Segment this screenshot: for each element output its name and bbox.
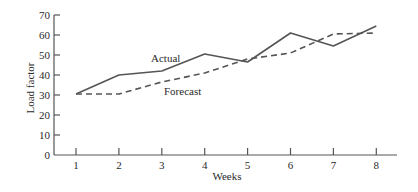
- actual-series-label: Actual: [151, 52, 180, 64]
- x-axis-label: Weeks: [212, 170, 241, 182]
- y-tick-label: 60: [39, 29, 51, 41]
- y-tick-label: 70: [39, 9, 51, 21]
- series-group: [76, 26, 376, 94]
- x-tick-label: 3: [159, 159, 165, 171]
- forecast-series-label: Forecast: [164, 85, 201, 97]
- y-tick-label: 10: [39, 129, 51, 141]
- x-tick-label: 6: [288, 159, 294, 171]
- actual-line: [76, 26, 376, 94]
- x-tick-label: 5: [245, 159, 251, 171]
- y-tick-label: 20: [39, 109, 51, 121]
- forecast-line: [76, 33, 376, 94]
- x-tick-label: 4: [202, 159, 208, 171]
- x-tick-label: 8: [374, 159, 380, 171]
- y-axis: 010203040506070: [39, 9, 60, 161]
- y-tick-label: 50: [39, 49, 51, 61]
- x-axis: 12345678: [54, 148, 397, 171]
- x-tick-label: 2: [116, 159, 122, 171]
- y-tick-label: 0: [45, 149, 51, 161]
- y-tick-label: 40: [39, 69, 51, 81]
- y-tick-label: 30: [39, 89, 51, 101]
- x-tick-label: 1: [73, 159, 79, 171]
- line-chart: 010203040506070 12345678 Load factor Wee…: [0, 0, 418, 192]
- x-tick-label: 7: [331, 159, 337, 171]
- y-axis-label: Load factor: [24, 62, 36, 113]
